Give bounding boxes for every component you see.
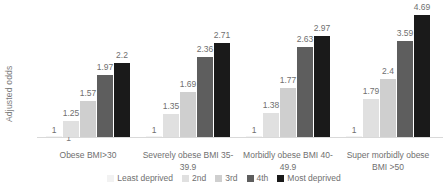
bar-value-label: 2.4 (382, 66, 394, 76)
bar-2nd[interactable] (163, 114, 179, 137)
bar-least-deprived[interactable] (46, 136, 62, 137)
bar-wrap-2nd: 1.35 (163, 8, 179, 137)
bar-least-deprived[interactable] (346, 136, 362, 137)
bar-4th[interactable] (197, 57, 213, 137)
bar-2nd[interactable] (63, 121, 79, 137)
bar-group-bars: 1 1.79 2.4 3.59 4.69 (341, 8, 435, 137)
legend-label: 3rd (225, 173, 237, 183)
bar-wrap-2nd: 1.79 (363, 8, 379, 137)
category-label-line2: 49.9 (237, 162, 339, 174)
bar-group-severely-obese: 1 1.35 1.69 2.36 2.71 (141, 8, 235, 137)
bar-wrap-most-deprived: 2.2 (114, 8, 130, 137)
bar-wrap-3rd: 1.57 (80, 8, 96, 137)
category-label-obese: Obese BMI>30 (39, 150, 137, 162)
bar-value-label: 1 (152, 125, 157, 135)
legend-item-least-deprived[interactable]: Least deprived (107, 173, 173, 183)
bar-value-label: 1 (252, 125, 257, 135)
bar-value-label: 2.2 (116, 50, 128, 60)
bar-value-label: 1 (352, 125, 357, 135)
bar-most-deprived[interactable] (114, 63, 130, 137)
bar-value-label: 2.71 (214, 30, 231, 40)
category-label-severely-obese: Severely obese BMI 35- 39.9 (137, 150, 239, 173)
bar-3rd[interactable] (180, 92, 196, 137)
legend-label: Most deprived (287, 173, 340, 183)
legend-swatch-icon (107, 175, 114, 182)
bar-4th[interactable] (397, 41, 413, 137)
bar-group-bars: 1 1.35 1.69 2.36 2.71 (141, 8, 235, 137)
legend-item-most-deprived[interactable]: Most deprived (277, 173, 340, 183)
bar-3rd[interactable] (280, 88, 296, 137)
bar-value-label: 1.97 (97, 62, 114, 72)
bar-value-label: 1.69 (180, 79, 197, 89)
category-label-line1: Super morbidly obese (339, 150, 437, 162)
bar-group-morbidly-obese: 1 1.38 1.77 2.63 2.97 (241, 8, 335, 137)
bar-least-deprived[interactable] (246, 136, 262, 137)
bar-group-bars: 1 1.38 1.77 2.63 2.97 (241, 8, 335, 137)
bar-wrap-least-deprived: 1 (46, 8, 62, 137)
bar-wrap-3rd: 1.77 (280, 8, 296, 137)
bar-most-deprived[interactable] (414, 15, 430, 137)
bar-value-label: 1.35 (163, 101, 180, 111)
bar-wrap-least-deprived: 1 (246, 8, 262, 137)
bar-value-label: 2.36 (197, 44, 214, 54)
legend-label: Least deprived (117, 173, 173, 183)
bar-wrap-2nd: 1.38 (263, 8, 279, 137)
bar-2nd[interactable] (363, 99, 379, 137)
legend-item-4th[interactable]: 4th (247, 173, 269, 183)
bar-wrap-least-deprived: 1 (146, 8, 162, 137)
bar-wrap-least-deprived: 1 (346, 8, 362, 137)
legend-swatch-icon (277, 175, 284, 182)
legend: Least deprived 2nd 3rd 4th Most deprived (0, 173, 448, 183)
category-label-line1: Morbidly obese BMI 40- (237, 150, 339, 162)
bar-wrap-most-deprived: 2.71 (214, 8, 230, 137)
bar-value-label: 2.97 (314, 23, 331, 33)
category-label-super-morbidly-obese: Super morbidly obese BMI >50 (339, 150, 437, 173)
bar-wrap-4th: 1.97 (97, 8, 113, 137)
category-label-line2: 39.9 (137, 162, 239, 174)
legend-swatch-icon (182, 175, 189, 182)
bar-value-label: 1.57 (80, 88, 97, 98)
bar-value-label: 1.38 (263, 100, 280, 110)
plot-area: 1 1 1.25 1.57 1.97 (37, 8, 443, 138)
bar-wrap-4th: 2.36 (197, 8, 213, 137)
bar-3rd[interactable] (380, 79, 396, 137)
bar-4th[interactable] (97, 75, 113, 137)
bar-value-label: 1 (52, 125, 57, 135)
bar-value-label: 2.63 (297, 34, 314, 44)
bar-group-super-morbidly-obese: 1 1.79 2.4 3.59 4.69 (341, 8, 435, 137)
category-label-line1: Obese BMI>30 (39, 150, 137, 162)
bar-value-label: 4.69 (414, 2, 431, 12)
legend-swatch-icon (247, 175, 254, 182)
legend-item-2nd[interactable]: 2nd (182, 173, 206, 183)
bar-4th[interactable] (297, 47, 313, 137)
bar-3rd[interactable] (80, 101, 96, 137)
bar-most-deprived[interactable] (214, 43, 230, 137)
bar-wrap-3rd: 1.69 (180, 8, 196, 137)
bar-value-label: 3.59 (397, 28, 414, 38)
bar-group-bars: 1 1.25 1.57 1.97 2.2 (41, 8, 135, 137)
bar-wrap-4th: 3.59 (397, 8, 413, 137)
bar-wrap-most-deprived: 4.69 (414, 8, 430, 137)
bar-group-obese: 1 1.25 1.57 1.97 2.2 (41, 8, 135, 137)
bar-2nd[interactable] (263, 113, 279, 137)
bar-wrap-2nd: 1.25 (63, 8, 79, 137)
category-label-line2: BMI >50 (339, 162, 437, 174)
bar-most-deprived[interactable] (314, 36, 330, 137)
bar-least-deprived[interactable] (146, 136, 162, 137)
category-label-morbidly-obese: Morbidly obese BMI 40- 49.9 (237, 150, 339, 173)
bar-wrap-most-deprived: 2.97 (314, 8, 330, 137)
bar-value-label: 1.79 (363, 86, 380, 96)
legend-swatch-icon (215, 175, 222, 182)
bar-chart: Adjusted odds 1 1 1.25 1.57 1.97 (0, 0, 448, 193)
legend-label: 2nd (192, 173, 206, 183)
bar-wrap-3rd: 2.4 (380, 8, 396, 137)
x-axis-baseline (37, 137, 443, 138)
bar-value-label: 1.25 (63, 108, 80, 118)
legend-label: 4th (257, 173, 269, 183)
bar-value-label: 1.77 (280, 75, 297, 85)
bar-wrap-4th: 2.63 (297, 8, 313, 137)
category-label-line1: Severely obese BMI 35- (137, 150, 239, 162)
legend-item-3rd[interactable]: 3rd (215, 173, 237, 183)
